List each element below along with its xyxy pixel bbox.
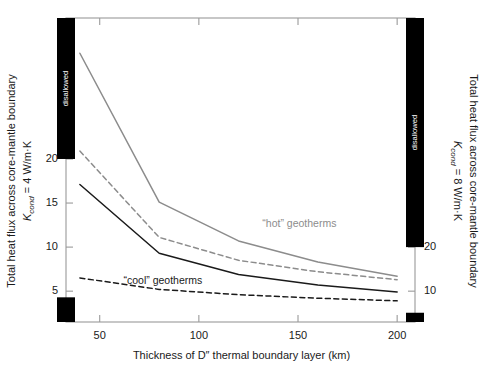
series-1-dashed [80,151,397,280]
y-tick-label-right-20: 20 [424,240,444,252]
y-axis-title-right: Total heat flux across core-mantle bound… [448,29,480,333]
x-tick-label-150: 150 [284,329,312,341]
x-tick-label-50: 50 [86,329,114,341]
series-0-solid [80,53,397,276]
x-tick-label-200: 200 [383,329,411,341]
x-axis-title: Thickness of D″ thermal boundary layer (… [0,349,483,361]
annotation-cool-geotherms: “cool” geotherms [124,274,203,286]
y-tick-label-left-15: 15 [40,196,58,208]
annotation-hot-geotherms: “hot” geotherms [262,217,336,229]
disallowed-band-label: disallowed [62,71,71,106]
disallowed-band-left-bottom [57,297,75,322]
y-axis-title-left-line2: Kcond = 4 W/m·K [21,29,37,333]
disallowed-band-right-bottom [406,313,424,322]
y-tick-label-right-10: 10 [424,284,444,296]
y-axis-title-left-line1: Total heat flux across core-mantle bound… [5,29,19,333]
x-tick-label-100: 100 [185,329,213,341]
y-axis-title-left: Total heat flux across core-mantle bound… [5,29,37,333]
y-tick-label-left-10: 10 [40,240,58,252]
figure-container: disalloweddisallowed50100150200510152010… [0,0,483,376]
y-axis-title-right-line1: Total heat flux across core-mantle bound… [466,29,480,333]
y-axis-title-right-line2: Kcond = 8 W/m·K [448,29,464,333]
disallowed-band-label: disallowed [411,115,420,150]
y-tick-label-left-5: 5 [40,284,58,296]
chart-canvas: disalloweddisallowed [0,0,483,376]
y-tick-label-left-20: 20 [40,152,58,164]
